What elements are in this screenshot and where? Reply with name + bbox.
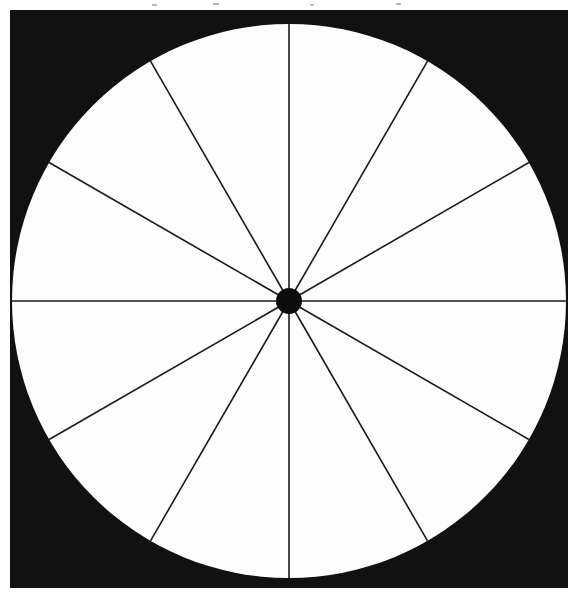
center-hub <box>276 288 302 314</box>
scan-speck-1 <box>213 3 219 5</box>
scan-speck-0 <box>152 4 157 6</box>
wheel-diagram <box>0 0 580 602</box>
scan-speck-2 <box>310 4 314 6</box>
scan-speck-3 <box>396 3 401 5</box>
figure-root <box>0 0 580 602</box>
